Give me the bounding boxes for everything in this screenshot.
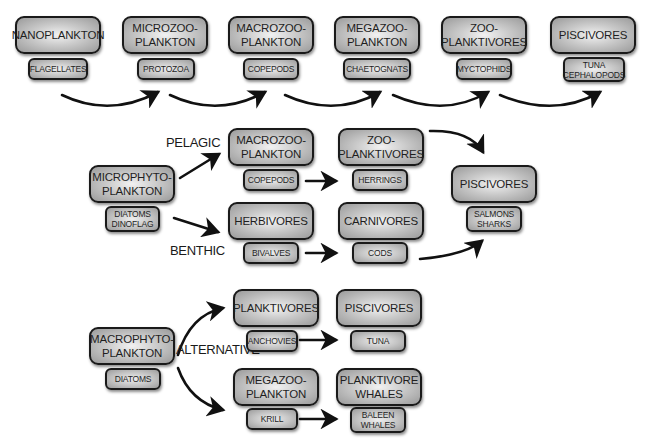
node-megazooplankton-bottom: MEGAZOO- PLANKTON: [233, 368, 319, 406]
node-anchovies: ANCHOVIES: [246, 330, 298, 352]
node-piscivores-middle: PISCIVORES: [451, 165, 537, 203]
node-title: PISCIVORES: [460, 177, 528, 191]
node-title: MICROZOO- PLANKTON: [132, 21, 197, 49]
node-title: PISCIVORES: [345, 301, 413, 315]
node-cods: CODS: [352, 242, 408, 264]
node-example: DIATOMS: [115, 374, 152, 384]
node-nanoplankton: NANOPLANKTON: [15, 16, 101, 54]
node-title: ZOO- PLANKTIVORES: [338, 133, 424, 161]
node-protozoa: PROTOZOA: [137, 58, 195, 80]
arrow-cods-piscivores: [420, 241, 482, 259]
node-carnivores: CARNIVORES: [338, 202, 424, 240]
node-planktivore-whales: PLANKTIVORE WHALES: [336, 368, 422, 406]
node-example: ANCHOVIES: [248, 336, 296, 346]
node-example: SALMONS SHARKS: [474, 209, 514, 229]
node-example: FLAGELLATES: [30, 64, 87, 74]
node-piscivores-bottom: PISCIVORES: [336, 289, 422, 327]
arrow-top-3: [285, 92, 380, 106]
node-planktivores: PLANKTIVORES: [233, 289, 319, 327]
node-bivalves: BIVALVES: [243, 242, 299, 264]
node-example: COPEPODS: [248, 175, 295, 185]
node-title: MACROZOO- PLANKTON: [236, 133, 306, 161]
node-salmons-sharks: SALMONS SHARKS: [466, 206, 522, 232]
node-herrings: HERRINGS: [352, 169, 408, 191]
node-krill: KRILL: [246, 408, 298, 430]
node-zooplanktivores-top: ZOO- PLANKTIVORES: [441, 16, 527, 54]
node-myctophids: MYCTOPHIDS: [456, 58, 512, 80]
node-flagellates: FLAGELLATES: [28, 58, 88, 80]
node-title: MICROPHYTO- PLANKTON: [92, 170, 171, 198]
node-example: BIVALVES: [252, 248, 290, 258]
arrow-benthic: [174, 218, 218, 232]
node-herbivores: HERBIVORES: [228, 202, 314, 240]
arrow-top-4: [393, 92, 488, 106]
node-megazooplankton-top: MEGAZOO- PLANKTON: [334, 16, 420, 54]
node-title: NANOPLANKTON: [12, 28, 105, 42]
node-microphytoplankton: MICROPHYTO- PLANKTON: [89, 165, 175, 203]
node-macrozooplankton-pelagic: MACROZOO- PLANKTON: [228, 128, 314, 166]
node-chaetognats: CHAETOGNATS: [343, 58, 411, 80]
node-example: BALEEN WHALES: [361, 410, 396, 430]
node-title: MACROZOO- PLANKTON: [236, 21, 306, 49]
node-example: PROTOZOA: [143, 64, 189, 74]
label-pelagic: PELAGIC: [166, 135, 220, 150]
arrow-alternative-lower: [178, 368, 223, 410]
node-microzooplankton: MICROZOO- PLANKTON: [122, 16, 208, 54]
node-diatoms-bottom: DIATOMS: [105, 368, 161, 390]
arrow-pelagic: [180, 154, 219, 178]
arrows-layer: [0, 0, 646, 445]
node-tuna-cephalopods: TUNA CEPHALOPODS: [563, 57, 625, 82]
node-example: CHAETOGNATS: [346, 64, 408, 74]
node-copepods-top: COPEPODS: [243, 58, 299, 80]
node-example: TUNA CEPHALOPODS: [563, 60, 626, 80]
node-example: HERRINGS: [358, 175, 401, 185]
node-copepods-pelagic: COPEPODS: [243, 169, 299, 191]
node-title: ZOO- PLANKTIVORES: [441, 21, 527, 49]
node-title: HERBIVORES: [234, 214, 307, 228]
node-example: TUNA: [367, 336, 389, 346]
node-piscivores-top: PISCIVORES: [550, 16, 636, 54]
node-example: MYCTOPHIDS: [457, 64, 512, 74]
arrow-top-1: [62, 92, 158, 106]
label-benthic: BENTHIC: [170, 243, 225, 258]
node-example: CODS: [368, 248, 392, 258]
node-title: PLANKTIVORES: [233, 301, 319, 315]
node-example: COPEPODS: [248, 64, 295, 74]
node-macrophytoplankton: MACROPHYTO- PLANKTON: [89, 327, 175, 365]
arrow-top-2: [170, 92, 265, 106]
node-title: PISCIVORES: [559, 28, 627, 42]
node-title: MACROPHYTO- PLANKTON: [90, 332, 174, 360]
node-example: DIATOMS DINOFLAG: [112, 209, 154, 229]
node-tuna: TUNA: [350, 330, 406, 352]
arrow-zooplanktivores-piscivores: [430, 131, 483, 152]
node-title: CARNIVORES: [344, 214, 418, 228]
node-diatoms-dinoflag: DIATOMS DINOFLAG: [105, 206, 160, 232]
node-example: KRILL: [261, 414, 284, 424]
node-baleen-whales: BALEEN WHALES: [350, 407, 406, 433]
node-title: MEGAZOO- PLANKTON: [245, 373, 306, 401]
node-title: PLANKTIVORE WHALES: [340, 373, 418, 401]
node-macrozooplankton-top: MACROZOO- PLANKTON: [228, 16, 314, 54]
food-web-diagram: NANOPLANKTON FLAGELLATES MICROZOO- PLANK…: [0, 0, 646, 445]
node-zooplanktivores-pelagic: ZOO- PLANKTIVORES: [338, 128, 424, 166]
arrow-top-5: [500, 92, 600, 106]
node-title: MEGAZOO- PLANKTON: [346, 21, 407, 49]
